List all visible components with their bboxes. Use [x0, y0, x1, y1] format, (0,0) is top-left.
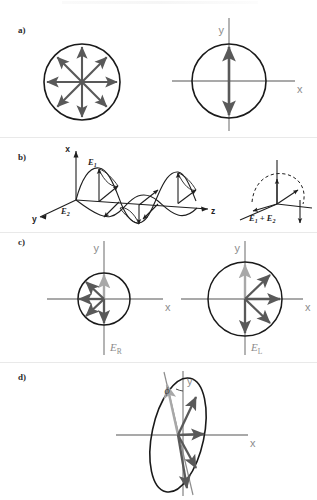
phi-angle-label: ϕ [164, 385, 169, 396]
panel-a: a) [0, 0, 317, 138]
el-field-label: EL [250, 341, 263, 356]
resultant-z-axis [277, 204, 312, 208]
panel-a-x-label: x [297, 83, 303, 95]
panel-b-z-label: z [211, 206, 215, 216]
panel-d: d) [0, 363, 317, 500]
el-arrows [245, 275, 280, 333]
unpolarized-arrows [47, 47, 117, 117]
panel-c-right-x-label: x [305, 301, 311, 313]
panel-b: b) [0, 138, 317, 233]
panel-b-y-label: y [32, 214, 37, 224]
panel-c-right-y-label: y [235, 242, 241, 254]
elliptical-polarization-diagram [116, 371, 248, 497]
panel-b-graphics: x y z E1 E2 [0, 138, 317, 233]
wave-curve-e2 [76, 195, 197, 217]
wave-y-axis [40, 200, 76, 217]
panel-a-y-label: y [219, 24, 225, 36]
wave-e2-label: E2 [60, 206, 70, 217]
linearly-polarized-diagram [172, 18, 295, 131]
polarization-figure: a) [0, 0, 317, 500]
wave-e1-label: E1 [87, 157, 97, 168]
panel-d-graphics: y x ϕ [0, 363, 317, 500]
left-circular-polarization-diagram [181, 241, 303, 355]
resultant-dashed-arc [252, 174, 304, 204]
panel-d-y-label: y [187, 375, 193, 387]
panel-a-graphics: y x [0, 0, 317, 138]
panel-c: c) [0, 233, 317, 363]
unpolarized-light-diagram [44, 44, 120, 120]
er-field-label: ER [109, 341, 122, 356]
er-arrows [79, 282, 104, 323]
panel-b-x-label: x [65, 144, 70, 154]
panel-c-graphics: y x ER y [0, 233, 317, 363]
wave-z-axis [76, 200, 208, 209]
resultant-sum-label: E1 + E2 [248, 213, 275, 224]
panel-d-x-label: x [250, 437, 256, 449]
phi-angle-arc [176, 389, 183, 391]
right-circular-polarization-diagram [47, 241, 163, 355]
panel-c-left-y-label: y [94, 242, 100, 254]
panel-c-left-x-label: x [165, 301, 171, 313]
